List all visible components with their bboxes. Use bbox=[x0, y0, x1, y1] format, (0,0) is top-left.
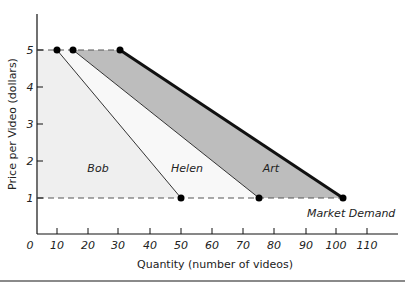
svg-text:60: 60 bbox=[205, 239, 219, 252]
point-art-top bbox=[117, 47, 124, 54]
y-axis-title: Price per Video (dollars) bbox=[6, 58, 19, 190]
svg-text:3: 3 bbox=[27, 118, 34, 131]
label-art: Art bbox=[262, 162, 280, 175]
svg-text:110: 110 bbox=[357, 239, 378, 252]
svg-text:1: 1 bbox=[27, 192, 34, 205]
label-helen: Helen bbox=[171, 162, 203, 175]
point-helen-bottom bbox=[256, 195, 263, 202]
svg-text:100: 100 bbox=[326, 239, 347, 252]
x-tick-labels: 0 10 20 30 40 50 60 70 80 90 100 110 bbox=[27, 239, 378, 252]
svg-text:80: 80 bbox=[267, 239, 281, 252]
point-bob-top bbox=[54, 47, 61, 54]
point-helen-top bbox=[70, 47, 77, 54]
svg-text:90: 90 bbox=[299, 239, 313, 252]
svg-text:4: 4 bbox=[27, 81, 34, 94]
x-ticks bbox=[57, 228, 367, 234]
svg-text:10: 10 bbox=[50, 239, 64, 252]
svg-text:50: 50 bbox=[174, 239, 188, 252]
svg-text:40: 40 bbox=[143, 239, 157, 252]
y-tick-labels: 5 4 3 2 1 bbox=[27, 44, 34, 205]
svg-text:2: 2 bbox=[27, 155, 34, 168]
svg-text:20: 20 bbox=[81, 239, 95, 252]
svg-text:5: 5 bbox=[27, 44, 34, 57]
label-market-demand: Market Demand bbox=[307, 207, 396, 220]
svg-text:30: 30 bbox=[111, 239, 125, 252]
svg-text:0: 0 bbox=[27, 239, 34, 252]
point-bob-bottom bbox=[178, 195, 185, 202]
svg-text:70: 70 bbox=[236, 239, 250, 252]
demand-chart: 5 4 3 2 1 0 10 20 30 40 50 60 70 80 90 1… bbox=[0, 0, 405, 284]
label-bob: Bob bbox=[87, 162, 108, 175]
x-axis-title: Quantity (number of videos) bbox=[137, 258, 293, 271]
point-market-bottom bbox=[340, 195, 347, 202]
